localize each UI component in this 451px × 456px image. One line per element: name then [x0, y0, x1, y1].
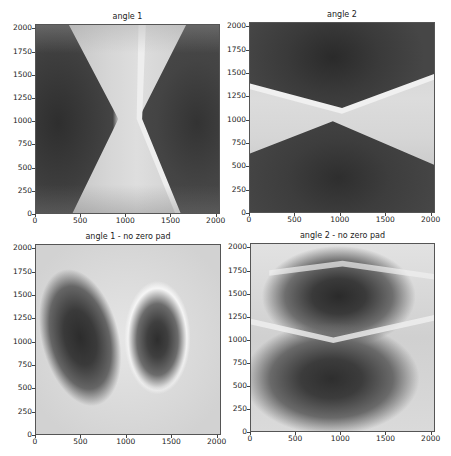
- y-tick-label: 1500: [2, 290, 32, 299]
- y-tick-mark: [246, 96, 249, 97]
- x-tick-label: 2000: [416, 434, 446, 443]
- x-tick-label: 1500: [370, 434, 400, 443]
- y-tick-label: 1250: [216, 91, 246, 100]
- y-tick-label: 500: [216, 161, 246, 170]
- x-tick-label: 0: [234, 215, 264, 224]
- x-tick-mark: [80, 214, 81, 217]
- y-tick-label: 1250: [2, 93, 32, 102]
- y-tick-label: 750: [2, 139, 32, 148]
- y-tick-label: 1000: [217, 335, 247, 344]
- y-tick-mark: [32, 75, 35, 76]
- x-tick-label: 1000: [325, 215, 355, 224]
- x-tick-mark: [385, 432, 386, 435]
- y-tick-mark: [32, 412, 35, 413]
- y-tick-label: 1500: [2, 70, 32, 79]
- x-tick-label: 500: [65, 437, 95, 446]
- x-tick-mark: [170, 214, 171, 217]
- x-tick-label: 0: [20, 437, 50, 446]
- x-tick-mark: [294, 213, 295, 216]
- y-tick-mark: [32, 28, 35, 29]
- y-tick-mark: [246, 50, 249, 51]
- y-tick-label: 750: [216, 138, 246, 147]
- x-tick-label: 0: [235, 434, 265, 443]
- y-tick-label: 1000: [216, 115, 246, 124]
- y-tick-label: 500: [2, 383, 32, 392]
- heatmap-angle-2: [249, 22, 435, 213]
- y-tick-mark: [32, 388, 35, 389]
- x-tick-label: 1500: [155, 216, 185, 225]
- y-tick-mark: [32, 318, 35, 319]
- y-tick-mark: [32, 168, 35, 169]
- x-tick-mark: [340, 213, 341, 216]
- y-tick-mark: [246, 26, 249, 27]
- panel-title: angle 1: [35, 12, 220, 21]
- y-tick-label: 250: [216, 185, 246, 194]
- y-tick-label: 2000: [2, 23, 32, 32]
- panel-title: angle 2 - no zero pad: [250, 231, 435, 240]
- y-tick-mark: [32, 191, 35, 192]
- y-tick-mark: [247, 409, 250, 410]
- x-tick-label: 2000: [201, 216, 231, 225]
- y-tick-mark: [32, 342, 35, 343]
- y-tick-mark: [32, 144, 35, 145]
- x-tick-label: 2000: [202, 437, 232, 446]
- y-tick-label: 1750: [2, 47, 32, 56]
- y-tick-label: 250: [217, 404, 247, 413]
- panel-title: angle 1 - no zero pad: [35, 232, 221, 241]
- y-tick-mark: [246, 143, 249, 144]
- x-tick-label: 1000: [111, 437, 141, 446]
- y-tick-label: 1500: [217, 289, 247, 298]
- y-tick-mark: [32, 248, 35, 249]
- y-tick-label: 500: [217, 381, 247, 390]
- x-tick-mark: [295, 432, 296, 435]
- y-tick-label: 250: [2, 407, 32, 416]
- x-tick-label: 500: [280, 434, 310, 443]
- y-tick-mark: [32, 272, 35, 273]
- panel-title: angle 2: [249, 10, 435, 19]
- x-tick-label: 500: [279, 215, 309, 224]
- y-tick-mark: [32, 98, 35, 99]
- x-tick-label: 2000: [416, 215, 446, 224]
- y-tick-mark: [32, 365, 35, 366]
- heatmap-angle-1: [35, 24, 220, 214]
- x-tick-mark: [431, 213, 432, 216]
- y-tick-label: 1750: [217, 266, 247, 275]
- y-tick-label: 1000: [2, 116, 32, 125]
- y-tick-label: 750: [217, 358, 247, 367]
- x-tick-mark: [80, 435, 81, 438]
- x-tick-mark: [340, 432, 341, 435]
- y-tick-label: 1250: [2, 313, 32, 322]
- y-tick-label: 750: [2, 360, 32, 369]
- y-tick-label: 2000: [216, 21, 246, 30]
- x-tick-label: 0: [20, 216, 50, 225]
- y-tick-label: 1250: [217, 312, 247, 321]
- x-tick-mark: [126, 435, 127, 438]
- y-tick-mark: [246, 73, 249, 74]
- x-tick-mark: [171, 435, 172, 438]
- y-tick-mark: [247, 317, 250, 318]
- x-tick-mark: [385, 213, 386, 216]
- x-tick-mark: [35, 214, 36, 217]
- x-tick-label: 1000: [110, 216, 140, 225]
- y-tick-label: 1750: [2, 267, 32, 276]
- y-tick-label: 1000: [2, 337, 32, 346]
- y-tick-mark: [247, 294, 250, 295]
- y-tick-mark: [32, 295, 35, 296]
- y-tick-mark: [247, 247, 250, 248]
- y-tick-label: 500: [2, 163, 32, 172]
- y-tick-label: 2000: [2, 243, 32, 252]
- y-tick-label: 1750: [216, 45, 246, 54]
- y-tick-label: 250: [2, 186, 32, 195]
- x-tick-mark: [125, 214, 126, 217]
- y-tick-label: 1500: [216, 68, 246, 77]
- x-tick-mark: [250, 432, 251, 435]
- y-tick-mark: [32, 121, 35, 122]
- y-tick-mark: [247, 363, 250, 364]
- y-tick-mark: [32, 52, 35, 53]
- y-tick-mark: [246, 190, 249, 191]
- heatmap-angle-1-no-zero-pad: [35, 244, 221, 435]
- x-tick-label: 1500: [370, 215, 400, 224]
- y-tick-mark: [247, 271, 250, 272]
- x-tick-mark: [249, 213, 250, 216]
- x-tick-mark: [35, 435, 36, 438]
